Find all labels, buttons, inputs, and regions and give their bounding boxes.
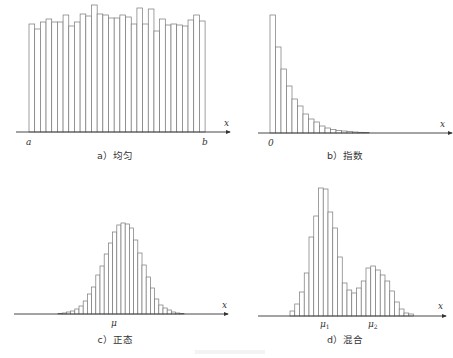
histogram-bar [160, 19, 166, 132]
histogram-bar [385, 281, 390, 316]
histogram-bar [352, 293, 357, 316]
histogram-bar [331, 130, 337, 134]
histogram-bar [142, 265, 146, 314]
histogram-bar [163, 308, 167, 314]
histogram-bar [167, 310, 171, 314]
histogram-bar [35, 29, 41, 132]
subplot-caption: d）混合 [327, 334, 363, 345]
histogram-bar [86, 16, 92, 132]
histogram-bar [171, 24, 177, 132]
histogram-bar [347, 290, 352, 316]
histogram-bar [380, 275, 385, 316]
histogram-bar [87, 294, 91, 314]
tick-label: μ [111, 318, 117, 328]
histogram-bar [281, 69, 287, 133]
subplot-caption: b）指数 [327, 150, 363, 161]
histogram-bar [125, 224, 129, 314]
histogram-bar [309, 237, 314, 316]
histogram-bar [399, 309, 404, 316]
histogram-bar [333, 228, 338, 316]
histogram-bar [194, 15, 200, 132]
tick-label: μ2 [368, 319, 378, 330]
histogram-bar [199, 21, 205, 132]
histogram-bar [361, 281, 366, 316]
histogram-bar [303, 114, 309, 133]
histogram-bar [159, 305, 163, 314]
histogram-bar [91, 5, 97, 132]
histogram-bar [143, 24, 149, 132]
histogram-bar [134, 240, 138, 314]
histogram-bar [323, 189, 328, 316]
histogram-bar [325, 128, 331, 133]
histogram-bar [100, 266, 104, 314]
histogram-bar [319, 188, 324, 316]
x-axis-label: x [222, 300, 227, 310]
histogram-bar [338, 257, 343, 316]
histogram-bar [138, 253, 142, 314]
histogram-bar [290, 311, 295, 316]
histogram-bar [395, 302, 400, 316]
histogram-bar [188, 20, 194, 132]
subplot-caption: a）均匀 [97, 150, 133, 161]
tick-label: a [26, 137, 31, 147]
histogram-bar [300, 292, 305, 316]
histogram-bar [314, 216, 319, 316]
histogram-bar [155, 299, 159, 314]
histogram-bar [83, 301, 87, 314]
histogram-bar [165, 25, 171, 132]
histogram-bar [304, 273, 309, 316]
uniform-histogram: xaba）均匀 [16, 5, 230, 161]
histogram-bar [131, 24, 137, 132]
histogram-bar [270, 15, 276, 133]
histogram-bar [104, 254, 108, 314]
histogram-bar [154, 31, 160, 132]
histogram-bar [320, 126, 326, 133]
histogram-bar [376, 270, 381, 316]
histogram-bar [357, 288, 362, 316]
histogram-bar [63, 15, 69, 132]
histogram-bar [108, 243, 112, 314]
figure-caption-faint [195, 350, 265, 354]
histogram-bar [103, 15, 109, 132]
histogram-bar [148, 9, 154, 132]
tick-label: 0 [268, 138, 274, 148]
x-axis-label: x [440, 119, 445, 129]
x-axis-label: x [438, 301, 443, 311]
histogram-bar [298, 106, 304, 133]
histogram-bar [114, 18, 120, 132]
histogram-bar [80, 14, 86, 132]
histogram-bar [287, 86, 293, 133]
tick-label: b [202, 137, 208, 147]
histogram-bar [113, 232, 117, 314]
histogram-bar [276, 47, 282, 133]
distribution-figure: xaba）均匀 x0b）指数 xμc）正态 xμ1μ2d）混合 [0, 0, 453, 358]
histogram-bar [52, 22, 58, 132]
normal-histogram: xμc）正态 [14, 223, 228, 345]
mixture-histogram: xμ1μ2d）混合 [258, 188, 446, 345]
histogram-bar [137, 8, 143, 132]
histogram-bar [57, 22, 63, 132]
subplot-caption: c）正态 [97, 334, 132, 345]
histogram-bar [126, 17, 132, 132]
histogram-bar [75, 309, 79, 314]
histogram-bar [97, 14, 103, 132]
histogram-bar [314, 122, 320, 133]
histogram-bar [109, 18, 115, 132]
histogram-bar [390, 291, 395, 316]
histogram-bar [146, 277, 150, 314]
histogram-bar [309, 119, 315, 133]
histogram-bar [328, 212, 333, 316]
histogram-bar [92, 287, 96, 314]
histogram-bar [292, 99, 298, 133]
x-axis-label: x [224, 118, 229, 128]
histogram-bar [342, 283, 347, 316]
histogram-bar [79, 306, 83, 314]
histogram-bar [371, 266, 376, 316]
histogram-bar [177, 25, 183, 132]
histogram-bar [182, 26, 188, 132]
histogram-bar [295, 304, 300, 316]
histogram-bar [74, 22, 80, 132]
histogram-bar [29, 24, 35, 132]
histogram-bar [96, 275, 100, 314]
histogram-bar [46, 19, 52, 132]
